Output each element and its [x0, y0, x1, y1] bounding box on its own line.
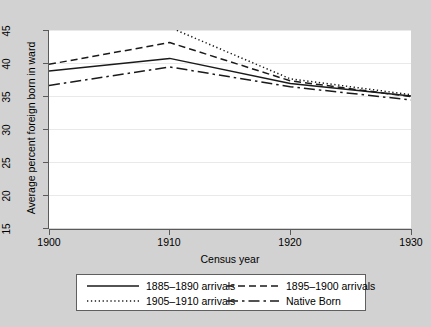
chart-legend: 1885–1890 arrivals 1905–1910 arrivals 18…: [76, 274, 366, 311]
y-tick-label-30: 30: [0, 123, 30, 137]
legend-key-dashed: [225, 278, 281, 294]
legend-label-3: Native Born: [286, 293, 341, 309]
legend-key-dotted: [85, 293, 141, 309]
legend-entry-3: Native Born: [225, 293, 365, 309]
x-axis-line: [49, 229, 412, 230]
plot-svg: [49, 30, 411, 228]
legend-entry-1: 1895–1900 arrivals: [225, 278, 365, 294]
plot-area: [49, 30, 411, 228]
data-series-layer: [49, 30, 411, 100]
y-tick-label-15: 15: [0, 222, 30, 236]
x-axis-title: Census year: [49, 253, 411, 265]
x-tick-label-1930: 1930: [388, 236, 431, 248]
legend-entry-0: 1885–1890 arrivals: [85, 278, 215, 294]
series-line-1: [49, 43, 411, 97]
x-tick-mark-1910: [169, 230, 170, 235]
x-tick-label-1910: 1910: [146, 236, 192, 248]
legend-label-2: 1905–1910 arrivals: [146, 293, 235, 309]
series-line-2: [170, 30, 411, 95]
x-tick-mark-1930: [411, 230, 412, 235]
x-tick-label-1900: 1900: [26, 236, 72, 248]
y-tick-mark-20: [43, 195, 48, 196]
chart-figure-inner: Average percent foreign born in ward: [8, 8, 423, 319]
x-tick-mark-1900: [49, 230, 50, 235]
x-tick-mark-1920: [290, 230, 291, 235]
y-tick-mark-35: [43, 96, 48, 97]
legend-entry-2: 1905–1910 arrivals: [85, 293, 215, 309]
chart-figure: Average percent foreign born in ward: [0, 0, 431, 327]
y-tick-mark-30: [43, 129, 48, 130]
y-tick-label-20: 20: [0, 189, 30, 203]
y-axis-line: [48, 30, 49, 229]
y-tick-mark-15: [43, 228, 48, 229]
y-tick-mark-40: [43, 63, 48, 64]
y-tick-mark-45: [43, 30, 48, 31]
y-tick-label-35: 35: [0, 90, 30, 104]
series-line-3: [49, 67, 411, 100]
legend-label-0: 1885–1890 arrivals: [146, 278, 235, 294]
legend-key-dashdot: [225, 293, 281, 309]
x-tick-label-1920: 1920: [267, 236, 313, 248]
legend-key-solid: [85, 278, 141, 294]
series-line-0: [49, 58, 411, 96]
y-tick-mark-25: [43, 162, 48, 163]
y-tick-label-45: 45: [0, 24, 30, 38]
y-tick-label-25: 25: [0, 156, 30, 170]
legend-label-1: 1895–1900 arrivals: [286, 278, 375, 294]
y-tick-label-40: 40: [0, 57, 30, 71]
